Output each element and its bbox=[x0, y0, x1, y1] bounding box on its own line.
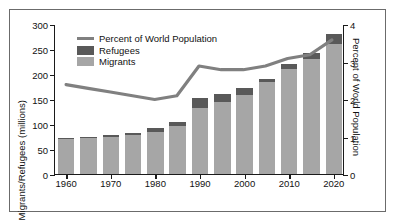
y-tick-mark-right bbox=[343, 138, 348, 139]
x-tick-label: 2010 bbox=[279, 178, 300, 189]
chart-figure: Migrants/Refugees (millions) Percent of … bbox=[9, 9, 386, 212]
x-tick-label: 1980 bbox=[145, 178, 166, 189]
legend-item-label: Refugees bbox=[99, 45, 140, 56]
x-tick-label: 2020 bbox=[323, 178, 344, 189]
legend-item: Refugees bbox=[77, 45, 217, 56]
legend-swatch-icon bbox=[77, 57, 94, 66]
y-tick-mark-left bbox=[50, 175, 55, 176]
y-tick-label-left: 100 bbox=[32, 120, 48, 131]
y-tick-label-right: 3 bbox=[350, 57, 355, 68]
x-tick-label: 1990 bbox=[189, 178, 210, 189]
legend-item-label: Percent of World Population bbox=[99, 33, 217, 44]
y-tick-label-right: 4 bbox=[350, 20, 355, 31]
y-tick-label-left: 250 bbox=[32, 45, 48, 56]
legend-item: Percent of World Population bbox=[77, 33, 217, 44]
y-tick-label-right: 1 bbox=[350, 132, 355, 143]
legend-item: Migrants bbox=[77, 56, 217, 67]
y-tick-mark-right bbox=[343, 100, 348, 101]
x-tick-label: 1970 bbox=[100, 178, 121, 189]
x-tick-label: 2000 bbox=[234, 178, 255, 189]
y-tick-label-left: 0 bbox=[43, 170, 48, 181]
legend-item-label: Migrants bbox=[99, 56, 135, 67]
legend-swatch-icon bbox=[77, 46, 94, 55]
plot-area: 050100150200250300 01234 196019701980199… bbox=[54, 25, 344, 175]
y-axis-title-left: Migrants/Refugees (millions) bbox=[16, 100, 27, 220]
y-tick-label-left: 200 bbox=[32, 70, 48, 81]
y-tick-label-left: 50 bbox=[37, 145, 48, 156]
y-tick-label-left: 300 bbox=[32, 20, 48, 31]
y-tick-mark-right bbox=[343, 63, 348, 64]
x-tick-label: 1960 bbox=[56, 178, 77, 189]
y-tick-label-right: 0 bbox=[350, 170, 355, 181]
chart-legend: Percent of World PopulationRefugeesMigra… bbox=[77, 33, 217, 68]
legend-line-marker-icon bbox=[77, 37, 94, 40]
y-tick-mark-right bbox=[343, 175, 348, 176]
y-tick-label-right: 2 bbox=[350, 95, 355, 106]
y-tick-mark-right bbox=[343, 25, 348, 26]
y-tick-label-left: 150 bbox=[32, 95, 48, 106]
